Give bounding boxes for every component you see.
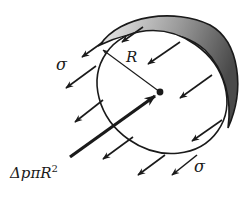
pressure-force-label: ΔpπR2 bbox=[9, 163, 58, 182]
stress-label-top: σ bbox=[56, 55, 68, 74]
pressure-force-label-main: ΔpπR bbox=[9, 164, 52, 182]
hemisphere-force-diagram: R σ σ ΔpπR2 bbox=[0, 0, 252, 203]
pressure-force-label-exponent: 2 bbox=[52, 163, 58, 174]
radius-label: R bbox=[125, 48, 137, 66]
center-dot bbox=[157, 89, 164, 96]
stress-label-bottom: σ bbox=[194, 157, 206, 176]
